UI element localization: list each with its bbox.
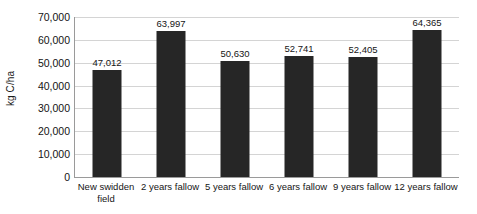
bar[interactable] xyxy=(349,57,378,177)
y-axis-tick-labels: 010,00020,00030,00040,00050,00060,00070,… xyxy=(0,17,70,177)
bar[interactable] xyxy=(157,31,186,177)
bar[interactable] xyxy=(285,56,314,177)
y-axis-tick-label: 40,000 xyxy=(4,80,70,92)
y-axis-tick-label: 30,000 xyxy=(4,102,70,114)
x-axis-tick-label: 6 years fallow xyxy=(266,181,330,193)
y-axis-tick-label: 10,000 xyxy=(4,148,70,160)
bar[interactable] xyxy=(93,70,122,177)
x-axis-tick-label: New swidden field xyxy=(74,181,138,204)
x-axis-tick-labels: New swidden field2 years fallow5 years f… xyxy=(74,181,458,214)
bar[interactable] xyxy=(221,61,250,177)
bar-group: 63,997 xyxy=(139,17,203,177)
x-axis-tick-label: 9 years fallow xyxy=(330,181,394,193)
bar-value-label: 52,405 xyxy=(348,44,377,55)
bar-value-label: 47,012 xyxy=(92,57,121,68)
y-axis-tick-label: 70,000 xyxy=(4,11,70,23)
bar-group: 52,405 xyxy=(331,17,395,177)
bar-value-label: 50,630 xyxy=(220,48,249,59)
y-axis-tick-label: 50,000 xyxy=(4,57,70,69)
bar-group: 47,012 xyxy=(75,17,139,177)
y-axis-tick-label: 0 xyxy=(4,171,70,183)
y-axis-tick-label: 20,000 xyxy=(4,125,70,137)
bar-group: 52,741 xyxy=(267,17,331,177)
bar-group: 64,365 xyxy=(395,17,459,177)
bar-chart: kg C/ha 010,00020,00030,00040,00050,0006… xyxy=(0,0,477,214)
x-axis-tick-label: 5 years fallow xyxy=(202,181,266,193)
bar-value-label: 64,365 xyxy=(412,17,441,28)
bar-value-label: 52,741 xyxy=(284,43,313,54)
bar-group: 50,630 xyxy=(203,17,267,177)
x-axis-tick-label: 2 years fallow xyxy=(138,181,202,193)
bar[interactable] xyxy=(413,30,442,177)
y-axis-tick-label: 60,000 xyxy=(4,34,70,46)
x-axis-tick-label: 12 years fallow xyxy=(394,181,458,193)
bar-value-label: 63,997 xyxy=(156,18,185,29)
plot-area: 47,01263,99750,63052,74152,40564,365 xyxy=(74,17,459,178)
